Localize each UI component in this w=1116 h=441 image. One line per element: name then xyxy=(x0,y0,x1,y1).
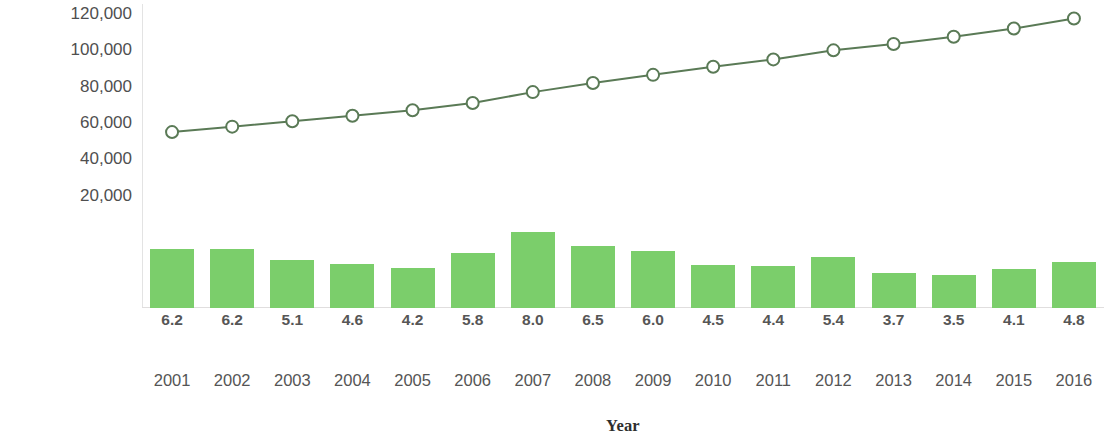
line-marker xyxy=(467,97,479,109)
bar-value-label: 4.5 xyxy=(683,311,743,329)
line-marker xyxy=(407,104,419,116)
y-axis-tick-labels: 20,00040,00060,00080,000100,000120,000 xyxy=(0,0,140,330)
bar-value-label: 6.0 xyxy=(623,311,683,329)
bar-value-label: 4.4 xyxy=(743,311,803,329)
x-axis-title: Year xyxy=(142,416,1104,436)
bar-value-label: 5.4 xyxy=(803,311,863,329)
bar-value-label: 4.8 xyxy=(1044,311,1104,329)
bar-value-label: 6.2 xyxy=(202,311,262,329)
bar-value-label: 8.0 xyxy=(503,311,563,329)
line-marker xyxy=(707,61,719,73)
bar-value-label: 4.2 xyxy=(383,311,443,329)
line-marker xyxy=(527,86,539,98)
y-axis-tick-label: 100,000 xyxy=(12,40,132,60)
y-axis-tick-label: 20,000 xyxy=(12,186,132,206)
bar-value-label: 3.7 xyxy=(864,311,924,329)
line-marker xyxy=(1008,23,1020,35)
line-marker xyxy=(948,31,960,43)
line-marker xyxy=(647,69,659,81)
y-axis-tick-label: 120,000 xyxy=(12,4,132,24)
x-axis-tick-labels: 2001200220032004200520062007200820092010… xyxy=(142,371,1104,397)
line-marker xyxy=(767,53,779,65)
line-marker xyxy=(166,126,178,138)
y-axis-tick-label: 40,000 xyxy=(12,149,132,169)
bar-value-label: 4.1 xyxy=(984,311,1044,329)
line-series-layer xyxy=(142,0,1104,308)
bar-value-label: 3.5 xyxy=(924,311,984,329)
chart-container: Plant varieties in force 20,00040,00060,… xyxy=(0,0,1116,441)
line-marker xyxy=(346,110,358,122)
bar-value-labels: 6.26.25.14.64.25.88.06.56.04.54.45.43.73… xyxy=(142,311,1104,337)
line-marker xyxy=(587,77,599,89)
line-marker xyxy=(1068,13,1080,25)
line-marker xyxy=(286,115,298,127)
y-axis-tick-label: 60,000 xyxy=(12,113,132,133)
bar-value-label: 6.5 xyxy=(563,311,623,329)
x-axis-tick-label: 2016 xyxy=(1039,371,1109,390)
y-axis-tick-label: 80,000 xyxy=(12,77,132,97)
line-marker xyxy=(827,44,839,56)
plot-area xyxy=(142,0,1104,308)
line-path xyxy=(172,19,1074,133)
bar-value-label: 5.8 xyxy=(443,311,503,329)
line-marker xyxy=(888,38,900,50)
bar-value-label: 6.2 xyxy=(142,311,202,329)
line-marker xyxy=(226,121,238,133)
bar-value-label: 5.1 xyxy=(262,311,322,329)
bar-value-label: 4.6 xyxy=(322,311,382,329)
